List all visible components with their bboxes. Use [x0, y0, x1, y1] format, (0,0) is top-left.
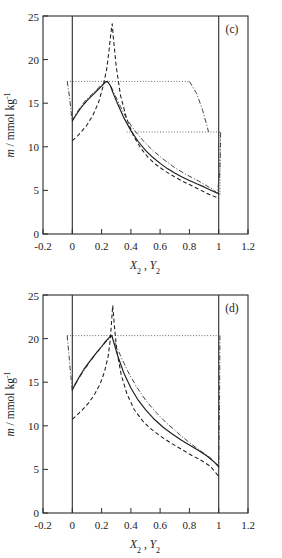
y-axis-title-c: m / mmol kg-1: [3, 92, 18, 157]
svg-text:1: 1: [216, 240, 222, 252]
y-tick-marks-c: [43, 16, 48, 234]
svg-text:-0.2: -0.2: [34, 519, 51, 531]
dashdot-right-descender-c: [189, 81, 208, 132]
dashed-curve-c: [72, 24, 218, 199]
y-tick-labels-d: 0 5 10 15 20 25: [28, 290, 40, 520]
svg-text:10: 10: [28, 420, 40, 432]
x-axis-title-d: X2 , Y2: [129, 538, 160, 555]
figure-two-panel-chart: 0 5 10 15 20 25 -0.2 0 0.2 0.4 0.6 0.8 1…: [0, 0, 282, 558]
svg-text:0.2: 0.2: [95, 240, 109, 252]
svg-text:15: 15: [28, 376, 40, 388]
svg-text:5: 5: [34, 463, 40, 475]
panel-tag-c: (c): [226, 23, 239, 36]
dashed-curve-d: [72, 305, 218, 476]
chart-panel-d: 0 5 10 15 20 25 -0.2 0 0.2 0.4 0.6 0.8 1…: [0, 279, 282, 558]
svg-text:25: 25: [28, 290, 40, 302]
svg-text:5: 5: [34, 184, 40, 196]
plot-frame-c: [43, 16, 248, 234]
x-axis-title-c: X2 , Y2: [129, 259, 160, 276]
plot-frame-d: [43, 295, 248, 513]
y-axis-title-d: m / mmol kg-1: [3, 371, 18, 436]
svg-text:0: 0: [34, 228, 40, 240]
chart-panel-c: 0 5 10 15 20 25 -0.2 0 0.2 0.4 0.6 0.8 1…: [0, 0, 282, 279]
svg-text:0.4: 0.4: [124, 240, 138, 252]
dashdot-curve-d: [67, 336, 220, 467]
solid-curve-d: [72, 336, 218, 467]
svg-text:0.6: 0.6: [153, 519, 167, 531]
svg-text:0: 0: [70, 240, 76, 252]
svg-text:1.2: 1.2: [241, 519, 255, 531]
solid-curve-c: [72, 81, 218, 193]
x-tick-marks-d: [43, 508, 248, 513]
x-tick-labels-c: -0.2 0 0.2 0.4 0.6 0.8 1 1.2: [34, 240, 255, 252]
panel-d-svg: 0 5 10 15 20 25 -0.2 0 0.2 0.4 0.6 0.8 1…: [0, 279, 282, 558]
svg-text:25: 25: [28, 11, 40, 23]
svg-text:10: 10: [28, 141, 40, 153]
svg-text:15: 15: [28, 97, 40, 109]
panel-tag-d: (d): [225, 302, 239, 315]
svg-text:20: 20: [28, 54, 40, 66]
svg-text:0.4: 0.4: [124, 519, 138, 531]
svg-text:1.2: 1.2: [241, 240, 255, 252]
svg-text:0.8: 0.8: [183, 519, 197, 531]
y-tick-marks-d: [43, 295, 48, 513]
panel-c-svg: 0 5 10 15 20 25 -0.2 0 0.2 0.4 0.6 0.8 1…: [0, 0, 282, 279]
x-tick-labels-d: -0.2 0 0.2 0.4 0.6 0.8 1 1.2: [34, 519, 255, 531]
x-tick-marks-c: [43, 229, 248, 234]
svg-text:0.2: 0.2: [95, 519, 109, 531]
y-tick-labels-c: 0 5 10 15 20 25: [28, 11, 40, 241]
svg-text:0: 0: [70, 519, 76, 531]
svg-text:1: 1: [216, 519, 222, 531]
svg-text:0.6: 0.6: [153, 240, 167, 252]
svg-text:0.8: 0.8: [183, 240, 197, 252]
svg-text:-0.2: -0.2: [34, 240, 51, 252]
svg-text:20: 20: [28, 333, 40, 345]
svg-text:0: 0: [34, 507, 40, 519]
